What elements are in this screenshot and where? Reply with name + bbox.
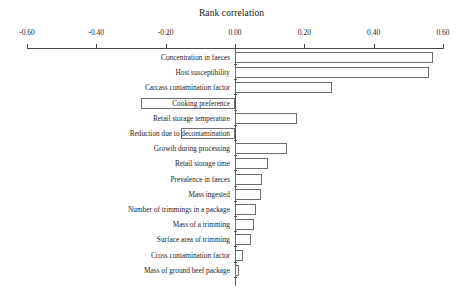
tornado-bar-row: Prevalence in faeces: [0, 173, 463, 187]
tornado-bar-row: Mass of ground beef package: [0, 264, 463, 278]
row-tick-mark: [234, 277, 237, 278]
tornado-bar: [235, 174, 262, 185]
tornado-bar: [235, 189, 261, 200]
row-tick-mark: [234, 110, 237, 111]
tornado-bar-label: Cross contamination factor: [3, 250, 233, 261]
tornado-bar-label: Host susceptibility: [3, 67, 233, 78]
tornado-bar-label: Concentration in faeces: [3, 52, 233, 63]
tornado-bar-row: Mass ingested: [0, 188, 463, 202]
x-axis-tick-label: 0.20: [298, 28, 311, 37]
row-tick-mark: [234, 186, 237, 187]
row-tick-mark: [234, 216, 237, 217]
tornado-bar-row: Cross contamination factor: [0, 249, 463, 263]
row-tick-mark: [234, 94, 237, 95]
x-axis-tick-label: 0.40: [367, 28, 380, 37]
x-axis-tick-mark: [235, 44, 236, 49]
x-axis-tick-mark: [304, 44, 305, 49]
tornado-bar-row: Retail storage time: [0, 157, 463, 171]
tornado-bar-row: Surface area of trimming: [0, 233, 463, 247]
row-tick-mark: [234, 246, 237, 247]
x-axis-tick-label: -0.40: [89, 28, 105, 37]
tornado-bar: [235, 143, 287, 154]
x-axis-tick-label: 0.60: [436, 28, 449, 37]
tornado-bar-label: Prevalence in faeces: [3, 174, 233, 185]
tornado-bar: [235, 250, 243, 261]
row-tick-mark: [234, 125, 237, 126]
page-title: Rank correlation: [0, 8, 463, 18]
x-axis-tick-mark: [374, 44, 375, 49]
tornado-bar: [235, 82, 332, 93]
row-tick-mark: [234, 155, 237, 156]
tornado-bar-label: Number of trimmings in a package: [3, 204, 233, 215]
x-axis-tick-label: 0.00: [228, 28, 241, 37]
tornado-bar-label: Surface area of trimming: [3, 234, 233, 245]
x-axis-tick-mark: [27, 44, 28, 49]
plot-area: Concentration in faecesHost susceptibili…: [0, 49, 463, 294]
tornado-bar: [235, 158, 268, 169]
tornado-bar-label: Reduction due to decontamination: [3, 128, 233, 139]
row-tick-mark: [234, 170, 237, 171]
tornado-bar: [235, 67, 429, 78]
tornado-bar-label: Mass of a trimming: [3, 219, 233, 230]
tornado-bar-label: Retail storage temperature: [3, 113, 233, 124]
row-tick-mark: [234, 64, 237, 65]
tornado-bar-row: Number of trimmings in a package: [0, 203, 463, 217]
tornado-bar-row: Mass of a trimming: [0, 218, 463, 232]
row-tick-mark: [234, 140, 237, 141]
tornado-bar: [235, 113, 297, 124]
x-axis-tick-label: -0.20: [158, 28, 174, 37]
row-tick-mark: [234, 201, 237, 202]
tornado-bar-row: Reduction due to decontamination: [0, 127, 463, 141]
row-tick-mark: [234, 231, 237, 232]
tornado-bar-row: Cooking preference: [0, 97, 463, 111]
tornado-bar: [235, 234, 251, 245]
tornado-bar-row: Host susceptibility: [0, 66, 463, 80]
tornado-bar-label: Retail storage time: [3, 158, 233, 169]
tornado-bar-row: Retail storage temperature: [0, 112, 463, 126]
x-axis-tick-mark: [443, 44, 444, 49]
row-tick-mark: [234, 79, 237, 80]
tornado-bar-label: Mass ingested: [3, 189, 233, 200]
x-axis-tick-labels: -0.60-0.40-0.200.000.200.400.60: [0, 28, 463, 50]
tornado-bar-label: Cooking preference: [3, 98, 233, 109]
x-axis-tick-mark: [166, 44, 167, 49]
x-axis-tick-label: -0.60: [19, 28, 35, 37]
tornado-bar-label: Carcass contamination factor: [3, 82, 233, 93]
tornado-bar-label: Growth during processing: [3, 143, 233, 154]
tornado-bar: [235, 219, 254, 230]
tornado-bar: [235, 52, 433, 63]
tornado-bar: [235, 204, 256, 215]
tornado-bar-label: Mass of ground beef package: [3, 265, 233, 276]
tornado-chart-figure: Rank correlation -0.60-0.40-0.200.000.20…: [0, 0, 463, 302]
tornado-bar-row: Concentration in faeces: [0, 51, 463, 65]
tornado-bar: [235, 265, 239, 276]
tornado-bar-row: Carcass contamination factor: [0, 81, 463, 95]
tornado-bar-row: Growth during processing: [0, 142, 463, 156]
row-tick-mark: [234, 262, 237, 263]
x-axis-tick-mark: [96, 44, 97, 49]
